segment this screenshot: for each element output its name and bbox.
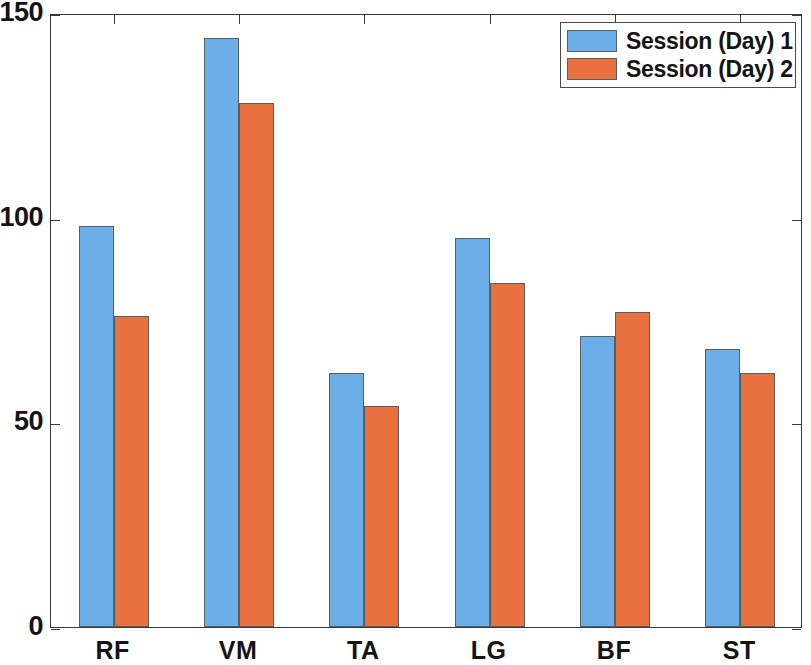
bar — [239, 103, 274, 627]
x-tick-label: VM — [219, 636, 258, 665]
bar — [204, 38, 239, 627]
x-tick-mark — [114, 15, 115, 24]
legend-item[interactable]: Session (Day) 1 — [567, 28, 789, 54]
y-tick-mark — [51, 220, 60, 221]
y-tick-mark — [792, 15, 801, 16]
plot-area — [50, 14, 802, 628]
y-tick-mark — [792, 424, 801, 425]
x-tick-label: RF — [95, 636, 129, 665]
bar-chart-figure: 050100150 RFVMTALGBFST Session (Day) 1Se… — [0, 0, 811, 665]
chart-legend: Session (Day) 1Session (Day) 2 — [560, 22, 796, 88]
legend-label: Session (Day) 1 — [626, 28, 793, 55]
x-tick-label: BF — [597, 636, 631, 665]
y-tick-label: 50 — [14, 406, 43, 437]
bar — [490, 283, 525, 627]
y-tick-label: 100 — [0, 202, 43, 233]
legend-color-swatch — [567, 58, 617, 80]
legend-color-swatch — [567, 30, 617, 52]
x-tick-label: ST — [723, 636, 756, 665]
bar — [114, 316, 149, 627]
y-tick-label: 0 — [28, 611, 43, 642]
x-tick-label: LG — [471, 636, 507, 665]
y-tick-mark — [792, 220, 801, 221]
bar — [740, 373, 775, 627]
bar — [329, 373, 364, 627]
x-tick-mark — [490, 15, 491, 24]
y-tick-label: 150 — [0, 0, 43, 28]
x-tick-label: TA — [347, 636, 379, 665]
x-tick-mark — [364, 15, 365, 24]
bar — [455, 238, 490, 627]
bar — [364, 406, 399, 627]
y-tick-mark — [792, 629, 801, 630]
y-tick-mark — [51, 424, 60, 425]
bar — [79, 226, 114, 627]
y-tick-mark — [51, 629, 60, 630]
legend-label: Session (Day) 2 — [626, 56, 793, 83]
y-tick-mark — [51, 15, 60, 16]
legend-item[interactable]: Session (Day) 2 — [567, 56, 789, 82]
bar — [705, 349, 740, 627]
bar — [580, 336, 615, 627]
bar — [615, 312, 650, 627]
x-tick-mark — [239, 15, 240, 24]
